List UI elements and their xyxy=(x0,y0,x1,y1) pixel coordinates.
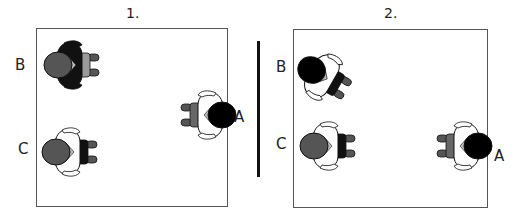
panel-1-label-c: C xyxy=(18,142,28,157)
panel-2-label-c: C xyxy=(276,137,286,152)
person-top-view-icon xyxy=(416,121,496,171)
divider-line xyxy=(257,41,260,177)
person-top-view-icon xyxy=(38,127,118,177)
person-top-view-icon xyxy=(40,40,120,90)
panel-2-title: 2. xyxy=(384,6,397,20)
person-top-view-icon xyxy=(292,46,372,106)
panel-1-title: 1. xyxy=(126,6,139,20)
person-top-view-icon xyxy=(160,90,240,140)
panel-2-label-b: B xyxy=(276,60,286,75)
person-top-view-icon xyxy=(296,121,376,171)
panel-1-label-b: B xyxy=(15,58,25,73)
